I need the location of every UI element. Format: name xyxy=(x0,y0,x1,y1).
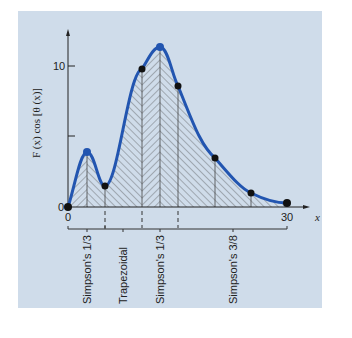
data-point xyxy=(102,183,109,190)
method-label-simpson13-b: Simpson's 1/3 xyxy=(154,235,166,304)
method-label-trapezoidal: Trapezoidal xyxy=(117,247,129,304)
x-axis-label: x xyxy=(314,211,320,223)
integration-figure: 10 0 0 30 x F (x) cos [θ (x)] Simpson's … xyxy=(0,0,352,338)
data-point xyxy=(283,199,291,207)
y-tick-label-10: 10 xyxy=(53,60,65,72)
method-label-simpson38: Simpson's 3/8 xyxy=(227,235,239,304)
method-label-simpson13-a: Simpson's 1/3 xyxy=(81,235,93,304)
data-point xyxy=(83,148,91,156)
data-point xyxy=(175,83,182,90)
data-point xyxy=(64,203,72,211)
data-point xyxy=(139,66,146,73)
data-point xyxy=(156,43,164,51)
y-axis-label: F (x) cos [θ (x)] xyxy=(30,88,43,158)
x-tick-label-30: 30 xyxy=(281,211,293,223)
y-tick-label-0: 0 xyxy=(58,201,64,213)
data-point xyxy=(212,155,219,162)
data-point xyxy=(248,190,255,197)
x-tick-label-0: 0 xyxy=(65,211,71,223)
